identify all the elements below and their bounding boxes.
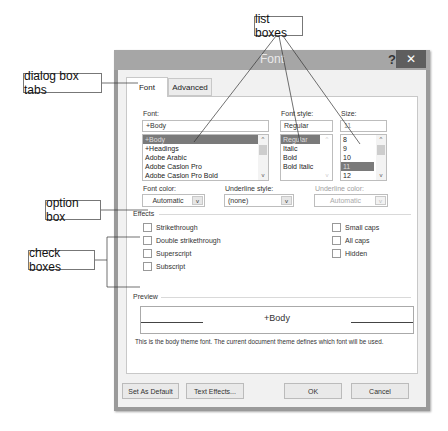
- effects-divider: [159, 214, 411, 215]
- callout-option-box: option box: [45, 200, 101, 220]
- font-style-input[interactable]: Regular: [280, 120, 333, 132]
- superscript-label: Superscript: [156, 250, 191, 257]
- size-label: Size:: [341, 110, 357, 117]
- font-list-scrollbar[interactable]: ^ v: [258, 135, 268, 180]
- all-caps-checkbox[interactable]: All caps: [332, 236, 370, 245]
- all-caps-label: All caps: [345, 237, 370, 244]
- chevron-down-icon[interactable]: v: [192, 196, 203, 205]
- subscript-checkbox[interactable]: Subscript: [143, 262, 185, 271]
- font-color-value: Automatic: [146, 197, 190, 204]
- close-icon: ✕: [406, 52, 416, 66]
- help-icon[interactable]: ?: [388, 52, 396, 67]
- scroll-up-icon[interactable]: ^: [258, 135, 268, 144]
- scroll-down-icon[interactable]: v: [376, 171, 386, 180]
- dialog-body: Font Advanced Font: +Body +Body +Heading…: [118, 70, 426, 407]
- hidden-label: Hidden: [345, 250, 367, 257]
- chevron-down-icon: v: [375, 196, 386, 205]
- set-as-default-button[interactable]: Set As Default: [122, 383, 179, 399]
- font-style-scrollbar[interactable]: ^ v: [322, 135, 332, 180]
- close-button[interactable]: ✕: [396, 50, 426, 68]
- text-effects-button[interactable]: Text Effects...: [186, 383, 244, 399]
- underline-color-dropdown: Automatic v: [314, 194, 388, 207]
- font-style-option[interactable]: Regular: [281, 135, 320, 144]
- scroll-up-icon[interactable]: ^: [376, 135, 386, 144]
- preview-divider: [161, 297, 411, 298]
- ok-button[interactable]: OK: [284, 383, 342, 399]
- preview-description: This is the body theme font. The current…: [135, 338, 383, 345]
- scroll-thumb[interactable]: [259, 145, 267, 155]
- tab-font[interactable]: Font: [126, 77, 168, 97]
- subscript-label: Subscript: [156, 263, 185, 270]
- size-list-scrollbar[interactable]: ^ v: [376, 135, 386, 180]
- underline-color-label: Underline color:: [315, 185, 364, 192]
- font-color-dropdown[interactable]: Automatic v: [142, 194, 205, 207]
- scroll-down-icon[interactable]: v: [258, 171, 268, 180]
- superscript-checkbox[interactable]: Superscript: [143, 249, 191, 258]
- size-option[interactable]: 11: [341, 162, 374, 171]
- preview-box: +Body: [140, 306, 414, 334]
- font-option[interactable]: +Headings: [143, 144, 268, 153]
- dialog-title: Font: [114, 52, 430, 66]
- double-strikethrough-label: Double strikethrough: [156, 237, 221, 244]
- size-list[interactable]: 8 9 10 11 12 ^ v: [340, 134, 387, 181]
- font-style-list[interactable]: Regular Italic Bold Bold Italic ^ v: [280, 134, 333, 181]
- font-style-label: Font style:: [281, 110, 313, 117]
- font-color-label: Font color:: [143, 185, 176, 192]
- font-tab-panel: Font: +Body +Body +Headings Adobe Arabic…: [126, 96, 418, 374]
- underline-style-dropdown[interactable]: (none) v: [224, 194, 294, 207]
- scroll-up-icon[interactable]: ^: [322, 135, 332, 144]
- underline-style-label: Underline style:: [225, 185, 273, 192]
- font-input[interactable]: +Body: [142, 120, 269, 132]
- font-option[interactable]: Adobe Arabic: [143, 153, 268, 162]
- strikethrough-label: Strikethrough: [156, 224, 198, 231]
- font-option[interactable]: Adobe Caslon Pro: [143, 162, 268, 171]
- font-option[interactable]: +Body: [143, 135, 268, 144]
- title-bar[interactable]: Font ? ✕: [114, 50, 430, 70]
- strikethrough-checkbox[interactable]: Strikethrough: [143, 223, 198, 232]
- tab-advanced[interactable]: Advanced: [168, 78, 212, 96]
- size-input[interactable]: 11: [340, 120, 387, 132]
- font-label: Font:: [143, 110, 159, 117]
- cancel-button[interactable]: Cancel: [351, 383, 409, 399]
- preview-baseline-right: [351, 322, 413, 323]
- underline-color-value: Automatic: [318, 197, 373, 204]
- callout-list-boxes: list boxes: [254, 16, 303, 36]
- callout-dialog-tabs: dialog box tabs: [23, 73, 102, 93]
- callout-check-boxes: check boxes: [28, 250, 95, 270]
- scroll-down-icon[interactable]: v: [322, 171, 332, 180]
- double-strikethrough-checkbox[interactable]: Double strikethrough: [143, 236, 221, 245]
- font-dialog: Font ? ✕ Font Advanced Font: +Body +Body…: [114, 50, 430, 411]
- effects-heading: Effects: [133, 210, 154, 217]
- font-list[interactable]: +Body +Headings Adobe Arabic Adobe Caslo…: [142, 134, 269, 181]
- scroll-thumb[interactable]: [377, 145, 385, 155]
- underline-style-value: (none): [228, 197, 279, 204]
- small-caps-checkbox[interactable]: Small caps: [332, 223, 379, 232]
- hidden-checkbox[interactable]: Hidden: [332, 249, 367, 258]
- font-option[interactable]: Adobe Caslon Pro Bold: [143, 171, 268, 180]
- small-caps-label: Small caps: [345, 224, 379, 231]
- chevron-down-icon[interactable]: v: [281, 196, 292, 205]
- preview-heading: Preview: [133, 293, 158, 300]
